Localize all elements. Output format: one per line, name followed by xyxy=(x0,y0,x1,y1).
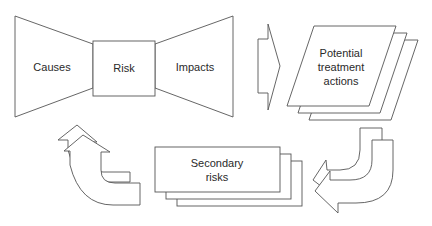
impacts-label: Impacts xyxy=(176,61,215,73)
secondary-label-line2: risks xyxy=(206,171,229,183)
curved-arrow-up-front-icon xyxy=(64,135,140,205)
secondary-sheet-front xyxy=(155,147,280,192)
secondary-risks-stack: Secondary risks xyxy=(155,147,302,206)
risk-label: Risk xyxy=(113,62,135,74)
right-arrow-icon xyxy=(258,24,280,110)
curved-arrow-right-group xyxy=(313,128,393,213)
bowtie-group: Causes Risk Impacts xyxy=(15,16,233,117)
causes-label: Causes xyxy=(33,61,71,73)
treatment-label-line2: treatment xyxy=(318,61,364,73)
treatment-label-line1: Potential xyxy=(320,47,363,59)
secondary-label-line1: Secondary xyxy=(191,157,244,169)
risk-cycle-diagram: Causes Risk Impacts Potential treatment … xyxy=(0,0,432,226)
treatment-label-line3: actions xyxy=(324,75,359,87)
treatment-stack: Potential treatment actions xyxy=(287,26,418,120)
curved-arrow-left-group xyxy=(58,125,140,205)
